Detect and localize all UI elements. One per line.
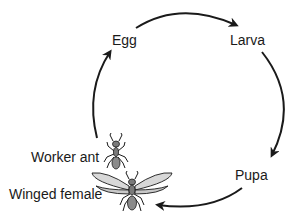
stage-label-worker-ant: Worker ant <box>31 150 99 164</box>
stage-label-egg: Egg <box>112 33 137 47</box>
stage-label-pupa: Pupa <box>235 168 268 182</box>
stage-label-larva: Larva <box>230 33 265 47</box>
arrow-worker-to-egg <box>93 52 110 138</box>
arrow-pupa-to-winged-female <box>158 188 242 207</box>
worker-ant-icon <box>104 133 128 169</box>
arrow-larva-to-pupa <box>262 52 284 155</box>
arrow-egg-to-larva <box>136 13 236 28</box>
stage-label-winged-female: Winged female <box>9 187 102 201</box>
ant-life-cycle-diagram: Egg Larva Pupa Worker ant Winged female <box>0 0 288 222</box>
